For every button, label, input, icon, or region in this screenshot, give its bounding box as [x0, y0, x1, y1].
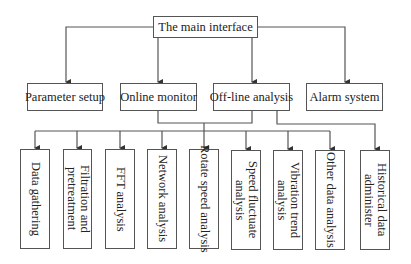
node-fft-analysis: FFT analysis	[105, 149, 135, 249]
node-historical-data-administer: Historical data administer	[360, 150, 390, 250]
node-label: Network analysis	[156, 155, 169, 242]
node-label: Off-line analysis	[210, 91, 293, 104]
node-online-monitor: Online monitor	[120, 83, 197, 111]
node-label: Alarm system	[310, 91, 380, 104]
node-vibration-trend-analysis: Vibration trend analysis	[273, 150, 303, 250]
node-label: Rotate speed analysis	[198, 145, 211, 253]
node-label: Speed fluctuate analysis	[233, 161, 259, 238]
node-label: Parameter setup	[25, 91, 105, 104]
node-data-gathering: Data gathering	[20, 149, 50, 249]
node-label: Other data analysis	[324, 152, 337, 248]
node-label: Vibration trend analysis	[275, 162, 301, 238]
node-filtration-pretreatment: Filtration and pretreatment	[63, 149, 92, 249]
node-label: FFT analysis	[114, 167, 127, 232]
node-other-data-analysis: Other data analysis	[315, 150, 345, 250]
node-alarm-system: Alarm system	[306, 83, 383, 111]
node-label: Filtration and pretreatment	[65, 165, 91, 233]
node-label: Data gathering	[29, 162, 42, 236]
node-label: Historical data administer	[362, 163, 388, 236]
node-rotate-speed-analysis: Rotate speed analysis	[189, 149, 219, 249]
node-speed-fluctuate-analysis: Speed fluctuate analysis	[231, 150, 261, 250]
node-label: The main interface	[158, 21, 252, 34]
node-main-interface: The main interface	[153, 16, 258, 38]
node-label: Online monitor	[120, 91, 197, 104]
node-network-analysis: Network analysis	[147, 149, 177, 249]
node-parameter-setup: Parameter setup	[27, 83, 103, 111]
node-offline-analysis: Off-line analysis	[213, 83, 290, 111]
